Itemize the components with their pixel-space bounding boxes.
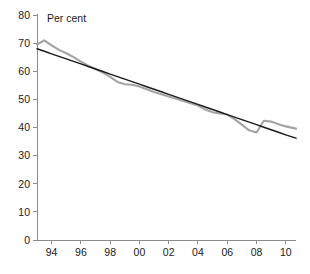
y-tick-label: 80: [18, 9, 30, 21]
x-tick-label: 06: [221, 246, 233, 258]
x-tick-label: 04: [192, 246, 204, 258]
y-tick-label: 30: [18, 149, 30, 161]
x-tick-label: 96: [75, 246, 87, 258]
y-tick-label: 60: [18, 65, 30, 77]
line-chart: 01020304050607080949698000204060810Per c…: [0, 0, 310, 274]
x-tick-label: 94: [46, 246, 58, 258]
x-tick-label: 10: [280, 246, 292, 258]
y-tick-label: 50: [18, 93, 30, 105]
series-line-observed: [37, 40, 296, 132]
x-tick-label: 00: [134, 246, 146, 258]
x-tick-label: 02: [163, 246, 175, 258]
figure-caption: [8, 266, 298, 273]
x-tick-label: 08: [251, 246, 263, 258]
y-tick-label: 0: [24, 234, 30, 246]
y-axis-title: Per cent: [47, 12, 86, 24]
chart-container: 01020304050607080949698000204060810Per c…: [0, 0, 310, 274]
y-tick-label: 10: [18, 206, 30, 218]
y-tick-label: 40: [18, 121, 30, 133]
y-tick-label: 20: [18, 178, 30, 190]
y-tick-label: 70: [18, 37, 30, 49]
x-tick-label: 98: [104, 246, 116, 258]
series-line-linear-trend: [37, 49, 296, 138]
